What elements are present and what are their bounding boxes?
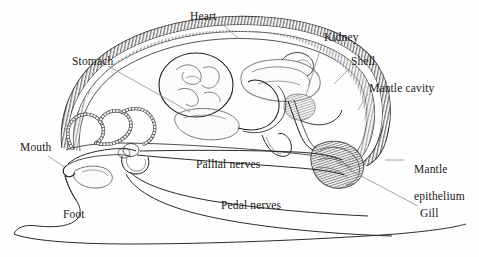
gill-structure — [311, 141, 364, 188]
intestine-structure — [68, 109, 155, 148]
label-mantle-epithelium-line2: epithelium — [414, 190, 465, 202]
label-heart: Heart — [190, 10, 216, 23]
label-pallial-nerves: Pallial nerves — [196, 158, 260, 171]
leader-mouth — [48, 156, 66, 168]
label-pedal-nerves: Pedal nerves — [221, 199, 281, 212]
anatomy-diagram: Heart Stomach Kidney Shell Mantle cavity… — [0, 0, 479, 257]
label-mantle-epithelium: Mantle epithelium — [408, 149, 465, 203]
label-mantle-cavity: Mantle cavity — [369, 82, 435, 95]
label-kidney: Kidney — [324, 31, 359, 44]
label-mouth: Mouth — [20, 141, 51, 154]
stomach-structure — [159, 53, 239, 140]
label-gill: Gill — [420, 207, 439, 220]
label-shell: Shell — [351, 55, 375, 68]
label-mantle-epithelium-line1: Mantle — [414, 163, 447, 175]
label-stomach: Stomach — [72, 55, 113, 68]
nerve-ring-structure — [118, 144, 149, 175]
label-foot: Foot — [63, 208, 85, 221]
leader-shell — [334, 68, 350, 84]
